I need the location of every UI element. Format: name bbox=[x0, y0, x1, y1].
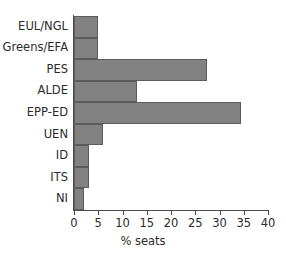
bar-fill bbox=[74, 81, 137, 103]
bar-pes bbox=[74, 59, 207, 81]
category-label-alde: ALDE bbox=[0, 85, 68, 97]
bar-epp-ed bbox=[74, 102, 241, 124]
bar-eul-ngl bbox=[74, 16, 98, 38]
bar-chart: EUL/NGLGreens/EFAPESALDEEPP-EDUENIDITSNI… bbox=[0, 0, 286, 258]
bar-fill bbox=[74, 59, 207, 81]
bar-fill bbox=[74, 124, 103, 146]
x-tick-mark bbox=[244, 211, 245, 215]
x-tick-mark bbox=[220, 211, 221, 215]
bar-fill bbox=[74, 167, 89, 189]
bar-ni bbox=[74, 188, 84, 210]
category-label-uen: UEN bbox=[0, 129, 68, 141]
bar-fill bbox=[74, 38, 98, 60]
bar-fill bbox=[74, 188, 84, 210]
x-tick-mark bbox=[74, 211, 75, 215]
x-tick-mark bbox=[268, 211, 269, 215]
category-label-pes: PES bbox=[0, 64, 68, 76]
x-tick-label: 40 bbox=[253, 217, 283, 230]
category-label-its: ITS bbox=[0, 172, 68, 184]
bar-fill bbox=[74, 102, 241, 124]
x-axis-title: % seats bbox=[0, 235, 286, 248]
bar-alde bbox=[74, 81, 137, 103]
x-tick-mark bbox=[195, 211, 196, 215]
bar-its bbox=[74, 167, 89, 189]
category-label-id: ID bbox=[0, 150, 68, 162]
x-tick-mark bbox=[147, 211, 148, 215]
bar-fill bbox=[74, 16, 98, 38]
bar-id bbox=[74, 145, 89, 167]
bar-fill bbox=[74, 145, 89, 167]
bar-uen bbox=[74, 124, 103, 146]
x-tick-mark bbox=[123, 211, 124, 215]
x-tick-mark bbox=[98, 211, 99, 215]
bar-greens-efa bbox=[74, 38, 98, 60]
category-label-epp-ed: EPP-ED bbox=[0, 107, 68, 119]
x-tick-mark bbox=[171, 211, 172, 215]
category-label-ni: NI bbox=[0, 193, 68, 205]
category-label-greens-efa: Greens/EFA bbox=[0, 42, 68, 54]
category-label-eul-ngl: EUL/NGL bbox=[0, 21, 68, 33]
